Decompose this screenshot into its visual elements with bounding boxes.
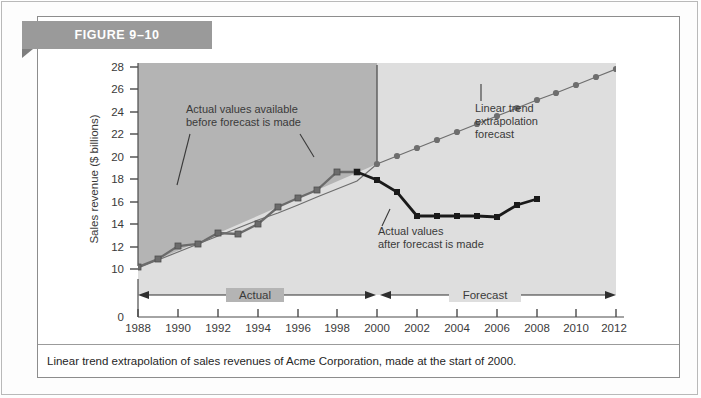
x-axis-ticks — [138, 309, 616, 317]
annotation-trend-line1: Linear trend — [475, 102, 534, 114]
annotation-trend-line2: extrapolation — [475, 115, 538, 127]
x-tick-label: 2008 — [524, 322, 550, 333]
x-tick-label: 1990 — [165, 322, 191, 333]
figure-banner: FIGURE 9–10 — [22, 21, 212, 49]
annotation-trend-line3: forecast — [475, 128, 514, 140]
band-actual-label: Actual — [239, 289, 271, 301]
x-tick-label: 1988 — [125, 322, 151, 333]
x-tick-label: 2004 — [444, 322, 470, 333]
y-tick-label: 20 — [111, 151, 124, 163]
y-tick-label: 12 — [111, 241, 124, 253]
x-tick-labels: 1988 1990 1992 1994 1996 1998 2000 2002 … — [125, 322, 627, 333]
y-tick-label: 24 — [111, 106, 124, 118]
figure-page: FIGURE 9–10 — [0, 0, 701, 398]
annotation-actual-before-line2: before forecast is made — [186, 116, 301, 128]
figure-caption: Linear trend extrapolation of sales reve… — [38, 355, 516, 367]
y-tick-label: 28 — [111, 61, 124, 73]
x-tick-label: 2000 — [364, 322, 390, 333]
y-tick-label: 16 — [111, 196, 124, 208]
y-tick-label: 22 — [111, 128, 124, 140]
figure-caption-bar: Linear trend extrapolation of sales reve… — [38, 344, 679, 377]
x-tick-label: 2002 — [404, 322, 430, 333]
y-tick-label: 14 — [111, 218, 124, 230]
annotation-actual-after-line2: after forecast is made — [378, 238, 484, 250]
x-tick-label: 1996 — [285, 322, 311, 333]
figure-banner-label: FIGURE 9–10 — [74, 28, 159, 42]
x-tick-label: 2012 — [601, 322, 627, 333]
y-tick-label: 26 — [111, 83, 124, 95]
x-tick-label: 1994 — [245, 322, 271, 333]
annotation-actual-before-line1: Actual values available — [186, 103, 298, 115]
y-tick-label: 10 — [111, 263, 124, 275]
y-axis-ticks — [130, 67, 138, 269]
chart-area: 28 26 24 22 20 18 16 14 12 10 0 Sales re… — [38, 17, 679, 333]
x-tick-label: 1998 — [324, 322, 350, 333]
y-tick-label: 18 — [111, 173, 124, 185]
x-tick-label: 1992 — [205, 322, 231, 333]
x-tick-label: 2010 — [563, 322, 589, 333]
y-axis-title: Sales revenue ($ billions) — [88, 114, 100, 243]
annotation-actual-after-line1: Actual values — [378, 225, 444, 237]
band-forecast-label: Forecast — [463, 289, 509, 301]
x-tick-label: 2006 — [484, 322, 510, 333]
y-zero-label: 0 — [118, 311, 124, 323]
banner-fold-icon — [22, 49, 33, 58]
y-tick-labels: 28 26 24 22 20 18 16 14 12 10 0 — [111, 61, 124, 323]
